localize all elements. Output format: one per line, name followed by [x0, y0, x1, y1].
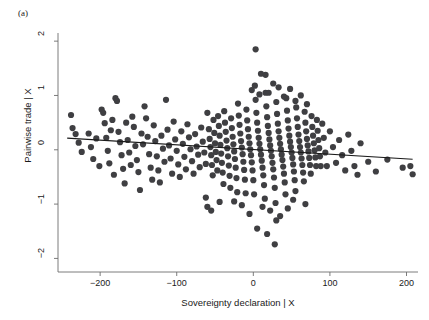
data-point: [257, 146, 263, 152]
data-point: [292, 177, 298, 183]
data-point: [272, 185, 278, 191]
data-point: [241, 167, 247, 173]
y-axis-label: Pairwise trade | X: [22, 51, 33, 201]
data-point: [299, 162, 305, 168]
data-point: [290, 161, 296, 167]
data-point: [305, 142, 311, 148]
data-point: [244, 117, 250, 123]
data-point: [208, 208, 214, 214]
data-point: [266, 130, 272, 136]
data-point: [298, 155, 304, 161]
data-point: [192, 131, 198, 137]
data-point: [137, 187, 143, 193]
data-point: [157, 179, 163, 185]
data-point: [259, 165, 265, 171]
data-point: [220, 181, 226, 187]
data-point: [306, 155, 312, 161]
data-point: [231, 148, 237, 154]
data-point: [168, 155, 174, 161]
data-point: [295, 124, 301, 130]
data-point: [230, 134, 236, 140]
data-point: [261, 182, 267, 188]
data-point: [291, 168, 297, 174]
data-point: [327, 128, 333, 134]
data-point: [132, 143, 138, 149]
data-point: [221, 108, 227, 114]
data-point: [126, 149, 132, 155]
data-point: [212, 140, 218, 146]
data-point: [315, 128, 321, 134]
data-point: [264, 231, 270, 237]
data-point: [253, 97, 259, 103]
data-point: [287, 139, 293, 145]
data-point: [155, 167, 161, 173]
data-point: [410, 171, 416, 177]
y-tick-marks: [54, 41, 58, 258]
data-point: [115, 129, 121, 135]
data-point: [158, 133, 164, 139]
data-point: [342, 167, 348, 173]
data-point: [161, 159, 167, 165]
data-point: [239, 202, 245, 208]
data-point: [295, 131, 301, 137]
data-point: [118, 152, 124, 158]
data-point: [251, 191, 257, 197]
data-point: [357, 140, 363, 146]
data-point: [169, 171, 175, 177]
data-point: [276, 135, 282, 141]
data-point: [302, 201, 308, 207]
data-point: [163, 97, 169, 103]
data-point: [365, 159, 371, 165]
data-point: [273, 99, 279, 105]
data-point: [319, 121, 325, 127]
data-point: [166, 142, 172, 148]
data-point: [236, 112, 242, 118]
data-point: [308, 171, 314, 177]
data-point: [249, 167, 255, 173]
data-point: [242, 177, 248, 183]
data-point: [183, 166, 189, 172]
data-point: [215, 113, 221, 119]
data-point: [228, 115, 234, 121]
data-point: [275, 121, 281, 127]
scatter-plot-canvas: [0, 0, 429, 320]
data-point: [307, 162, 313, 168]
data-point: [135, 169, 141, 175]
data-point: [258, 152, 264, 158]
data-point: [290, 197, 296, 203]
data-point: [292, 98, 298, 104]
data-point: [148, 165, 154, 171]
data-point: [279, 157, 285, 163]
data-point: [249, 159, 255, 165]
data-point: [354, 172, 360, 178]
data-point: [262, 196, 268, 202]
data-point: [186, 134, 192, 140]
y-tick-label: −1: [36, 194, 46, 212]
data-point: [267, 142, 273, 148]
data-point: [285, 205, 291, 211]
data-point: [76, 140, 82, 146]
data-point: [93, 135, 99, 141]
data-point: [111, 172, 117, 178]
data-point: [279, 152, 285, 158]
data-point: [190, 171, 196, 177]
data-point: [233, 165, 239, 171]
data-point: [143, 115, 149, 121]
data-point: [209, 162, 215, 168]
data-point: [68, 112, 74, 118]
data-point: [288, 144, 294, 150]
data-point: [154, 153, 160, 159]
data-point: [316, 145, 322, 151]
data-point: [256, 141, 262, 147]
data-point: [164, 127, 170, 133]
data-point: [204, 110, 210, 116]
data-point: [149, 177, 155, 183]
data-point: [294, 115, 300, 121]
data-point: [400, 165, 406, 171]
data-point: [267, 208, 273, 214]
data-point: [138, 130, 144, 136]
data-point: [351, 163, 357, 169]
data-point: [96, 163, 102, 169]
data-point: [266, 136, 272, 142]
data-point: [269, 153, 275, 159]
